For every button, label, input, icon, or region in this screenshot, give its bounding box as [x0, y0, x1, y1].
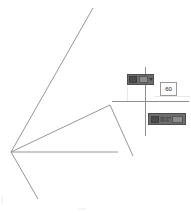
tooltip-lower-label: 指定下一点或	[160, 116, 171, 122]
tooltip-icon	[129, 76, 137, 83]
command-prompt-tooltip-lower[interactable]: 指定下一点或	[148, 113, 186, 125]
geometry-lines	[11, 8, 133, 199]
tracking-guide-vertical	[127, 86, 128, 101]
chevron-down-icon[interactable]	[149, 78, 153, 81]
line-ridge-left-segment	[11, 105, 110, 152]
line-long-diagonal-upper	[11, 8, 93, 152]
dynamic-input-field[interactable]: 60	[160, 82, 177, 96]
cad-application-window: 极轴 60 指定下一点或	[0, 0, 191, 213]
faint-artifacts	[2, 196, 86, 209]
line-lower-diagonal	[11, 152, 38, 199]
command-option-tooltip-upper[interactable]: 极轴	[127, 74, 154, 85]
tooltip-upper-input[interactable]	[139, 76, 148, 83]
tooltip-lower-input[interactable]	[172, 116, 183, 123]
dynamic-input-value: 60	[165, 86, 171, 93]
prompt-icon	[151, 116, 159, 123]
tracking-guide-horizontal	[154, 96, 190, 97]
crosshair-horizontal-line	[112, 101, 189, 102]
line-ridge-right-segment	[110, 105, 133, 156]
drawing-canvas[interactable]	[0, 0, 191, 213]
